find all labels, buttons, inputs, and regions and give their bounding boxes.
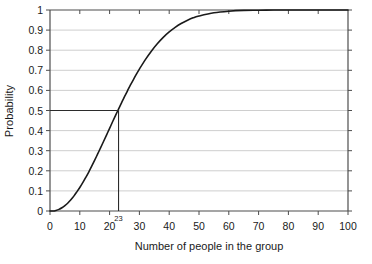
x-tick-label: 30 — [134, 220, 146, 232]
y-tick-label: 0.9 — [28, 24, 43, 36]
y-axis-title: Probability — [0, 0, 18, 222]
y-tick-label: 0.4 — [28, 125, 43, 137]
y-tick-label: 0.7 — [28, 64, 43, 76]
x-axis-title: Number of people in the group — [0, 240, 372, 252]
y-tick-label: 0.1 — [28, 185, 43, 197]
y-tick-label: 0.6 — [28, 84, 43, 96]
threshold-annotation-label: 23 — [114, 214, 122, 223]
y-tick-label: 0.5 — [28, 105, 43, 117]
y-tick-label: 0.3 — [28, 145, 43, 157]
y-tick-label: 1 — [37, 4, 43, 16]
x-tick-label: 60 — [223, 220, 235, 232]
x-tick-marks — [50, 211, 348, 215]
x-tick-label: 0 — [47, 220, 53, 232]
y-tick-label: 0 — [37, 205, 43, 217]
x-tick-label: 40 — [163, 220, 175, 232]
threshold-annotation-lines — [50, 111, 119, 212]
x-tick-label: 70 — [253, 220, 265, 232]
x-tick-label: 100 — [339, 220, 357, 232]
x-tick-label: 80 — [283, 220, 295, 232]
birthday-problem-chart: Probability Number of people in the grou… — [0, 0, 372, 264]
y-tick-label: 0.2 — [28, 165, 43, 177]
x-tick-label: 50 — [193, 220, 205, 232]
y-tick-label: 0.8 — [28, 44, 43, 56]
x-tick-label: 90 — [312, 220, 324, 232]
y-axis-title-text: Probability — [3, 85, 15, 137]
x-tick-label: 10 — [74, 220, 86, 232]
